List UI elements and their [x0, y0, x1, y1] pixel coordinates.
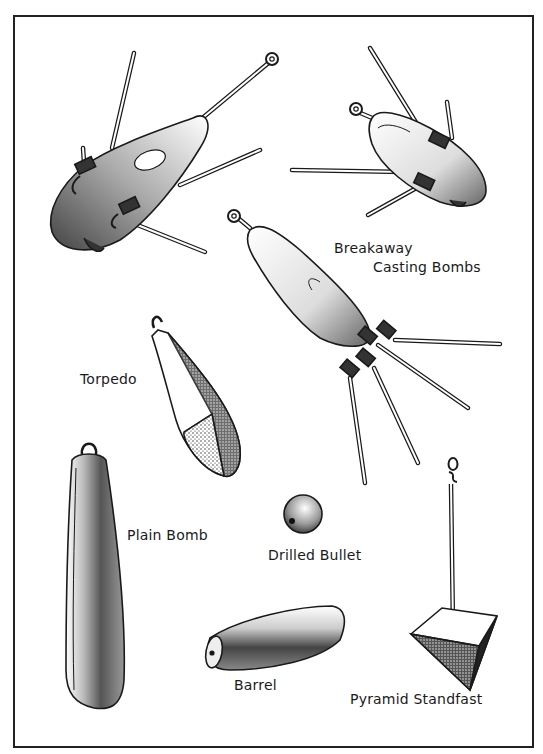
label-breakaway: Breakaway — [334, 240, 413, 256]
label-casting-bombs: Casting Bombs — [373, 259, 481, 275]
pyramid-standfast-sinker — [411, 458, 497, 690]
label-plain-bomb: Plain Bomb — [127, 527, 208, 543]
drilled-bullet-sinker — [284, 495, 322, 533]
label-torpedo: Torpedo — [80, 371, 137, 387]
plain-bomb-sinker — [66, 444, 124, 709]
breakaway-bomb-small — [292, 48, 486, 215]
barrel-sinker — [203, 606, 344, 670]
label-drilled-bullet: Drilled Bullet — [268, 547, 361, 563]
torpedo-sinker — [152, 317, 240, 476]
label-pyramid-standfast: Pyramid Standfast — [350, 691, 482, 707]
label-barrel: Barrel — [234, 677, 277, 693]
